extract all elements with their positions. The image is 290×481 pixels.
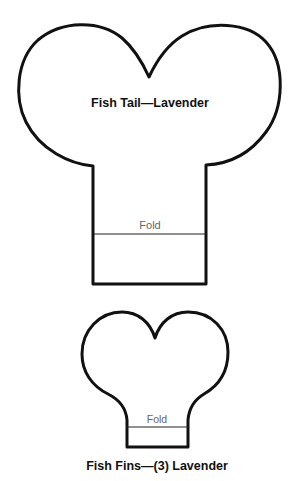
fish-fins-fold-label: Fold bbox=[147, 413, 167, 425]
fish-fins-label: Fish Fins—(3) Lavender bbox=[86, 459, 228, 473]
fish-tail-fold-label: Fold bbox=[139, 219, 160, 231]
pattern-drawing bbox=[0, 0, 290, 481]
pattern-sheet: Fish Tail—Lavender Fold Fold Fish Fins—(… bbox=[0, 0, 290, 481]
fish-tail-pattern bbox=[19, 25, 281, 284]
fish-tail-label: Fish Tail—Lavender bbox=[91, 96, 209, 110]
fish-tail-outline bbox=[19, 25, 281, 284]
fish-fins-pattern bbox=[82, 312, 228, 447]
